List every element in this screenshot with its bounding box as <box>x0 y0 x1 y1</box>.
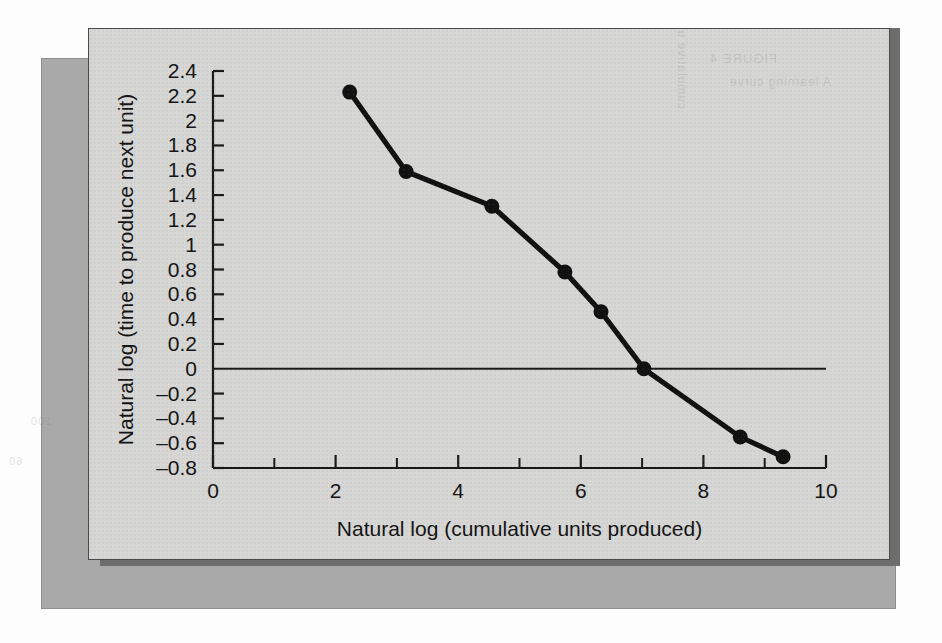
y-tick-label: 0 <box>185 357 197 380</box>
learning-curve-chart: –0.8–0.6–0.4–0.200.20.40.60.811.21.41.61… <box>89 29 889 559</box>
data-point <box>399 164 414 179</box>
data-point <box>557 265 572 280</box>
y-axis-title: Natural log (time to produce next unit) <box>114 94 137 445</box>
x-tick-label: 4 <box>452 479 464 502</box>
y-tick-label: 1.6 <box>168 158 197 181</box>
bleedthrough-text-e: 60 <box>8 455 22 467</box>
y-tick-label: 1.2 <box>168 208 197 231</box>
data-point <box>594 304 609 319</box>
y-tick-label: –0.8 <box>156 456 197 479</box>
y-tick-label: –0.6 <box>156 431 197 454</box>
x-tick-label: 0 <box>207 479 219 502</box>
y-tick-label: 2.2 <box>168 84 197 107</box>
y-tick-label: 0.8 <box>168 258 197 281</box>
x-tick-label: 2 <box>330 479 342 502</box>
x-axis-title: Natural log (cumulative units produced) <box>337 517 702 540</box>
y-tick-label: –0.2 <box>156 382 197 405</box>
y-tick-label: 2.4 <box>168 59 198 82</box>
y-tick-label: 2 <box>185 109 197 132</box>
y-tick-label: 1 <box>185 233 197 256</box>
x-tick-label: 10 <box>814 479 837 502</box>
y-tick-label: 0.6 <box>168 282 197 305</box>
y-tick-label: 0.2 <box>168 332 197 355</box>
data-point <box>636 361 651 376</box>
data-point <box>733 430 748 445</box>
y-tick-label: 1.8 <box>168 133 197 156</box>
chart-card: FIGURE 4 A learning curve cumulative uni… <box>88 28 890 560</box>
data-point <box>342 85 357 100</box>
y-tick-label: –0.4 <box>156 406 197 429</box>
x-tick-label: 6 <box>575 479 587 502</box>
scanned-page: FIGURE 4 A learning curve cumulative uni… <box>0 0 942 643</box>
y-tick-label: 1.4 <box>168 183 198 206</box>
x-tick-label: 8 <box>698 479 710 502</box>
plot-area: –0.8–0.6–0.4–0.200.20.40.60.811.21.41.61… <box>89 29 889 559</box>
data-point <box>484 199 499 214</box>
data-point <box>776 449 791 464</box>
y-tick-label: 0.4 <box>168 307 198 330</box>
